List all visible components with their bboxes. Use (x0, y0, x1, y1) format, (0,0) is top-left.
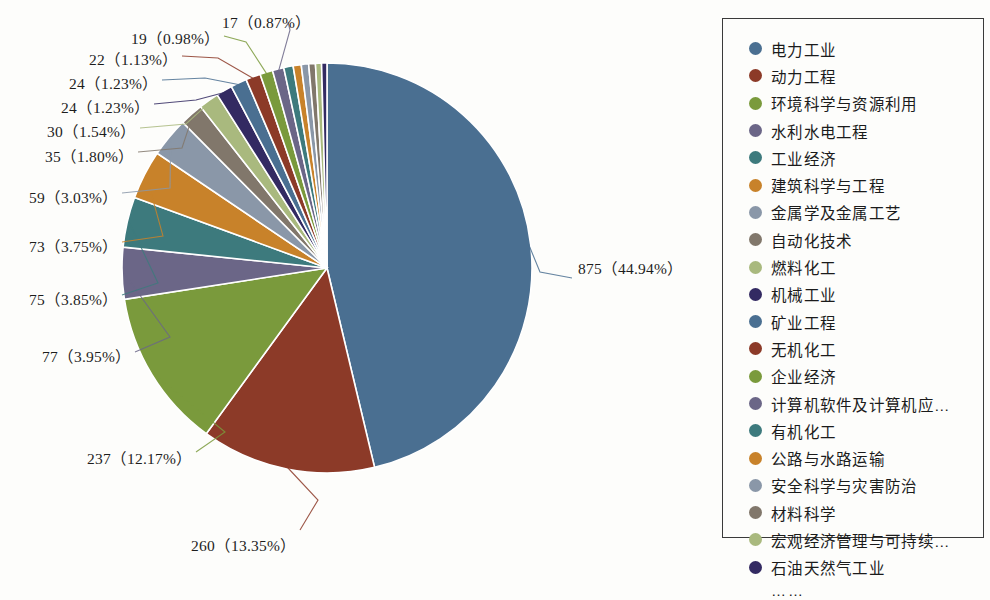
legend-item-label: 计算机软件及计算机应… (771, 393, 950, 415)
legend-item-label: 有机化工 (771, 420, 836, 442)
legend-ellipsis: …… (771, 581, 983, 600)
legend-item[interactable]: 公路与水路运输 (749, 444, 983, 471)
legend-item-label: 建筑科学与工程 (771, 174, 885, 196)
legend-item[interactable]: 机械工业 (749, 281, 983, 308)
legend-item-label: 电力工业 (771, 38, 836, 60)
legend-swatch-icon (749, 315, 762, 328)
legend-swatch-icon (749, 533, 762, 546)
legend-swatch-icon (749, 42, 762, 55)
legend-swatch-icon (749, 452, 762, 465)
slice-label-59: 59（3.03%） (29, 185, 118, 207)
slice-label-22: 22（1.13%） (89, 47, 178, 69)
slice-label-260: 260（13.35%） (191, 533, 296, 555)
legend-swatch-icon (749, 233, 762, 246)
legend-item-label: 材料科学 (771, 502, 836, 524)
slice-label-24-a: 24（1.23%） (61, 95, 150, 117)
legend-item[interactable]: 有机化工 (749, 417, 983, 444)
slice-label-73: 73（3.75%） (29, 234, 118, 256)
legend-item-label: 无机化工 (771, 338, 836, 360)
legend-item[interactable]: 材料科学 (749, 499, 983, 526)
legend-item-label: 燃料化工 (771, 256, 836, 278)
legend-item[interactable]: 无机化工 (749, 335, 983, 362)
legend-item-label: 安全科学与灾害防治 (771, 474, 918, 496)
legend-swatch-icon (749, 97, 762, 110)
slice-label-75: 75（3.85%） (29, 287, 118, 309)
legend-swatch-icon (749, 151, 762, 164)
slice-label-30: 30（1.54%） (47, 119, 136, 141)
legend-item-label: 工业经济 (771, 147, 836, 169)
legend-item-label: 水利水电工程 (771, 120, 869, 142)
legend-item-label: 矿业工程 (771, 311, 836, 333)
legend-swatch-icon (749, 124, 762, 137)
legend-swatch-icon (749, 179, 762, 192)
leader-line (162, 78, 240, 85)
legend-swatch-icon (749, 370, 762, 383)
slice-label-19: 19（0.98%） (131, 26, 220, 48)
legend-item-label: 机械工业 (771, 283, 836, 305)
legend-item[interactable]: 石油天然气工业 (749, 554, 983, 581)
legend-swatch-icon (749, 342, 762, 355)
legend-item[interactable]: 宏观经济管理与可持续… (749, 526, 983, 553)
legend-swatch-icon (749, 69, 762, 82)
legend-item-label: 公路与水路运输 (771, 447, 885, 469)
slice-label-24-b: 24（1.23%） (69, 71, 158, 93)
legend-box: 电力工业动力工程环境科学与资源利用水利水电工程工业经济建筑科学与工程金属学及金属… (722, 18, 984, 538)
chart-area: 875（44.94%） 260（13.35%） 237（12.17%） 77（3… (0, 0, 715, 552)
leader-line (287, 467, 318, 530)
legend-item-label: 自动化技术 (771, 229, 853, 251)
legend-swatch-icon (749, 561, 762, 574)
legend-item-label: 环境科学与资源利用 (771, 92, 918, 114)
legend-item[interactable]: 金属学及金属工艺 (749, 199, 983, 226)
legend-item[interactable]: 动力工程 (749, 62, 983, 89)
legend-swatch-icon (749, 397, 762, 410)
legend-swatch-icon (749, 424, 762, 437)
legend-item[interactable]: 环境科学与资源利用 (749, 90, 983, 117)
legend-item[interactable]: 企业经济 (749, 363, 983, 390)
legend-item-label: 宏观经济管理与可持续… (771, 529, 950, 551)
legend-swatch-icon (749, 261, 762, 274)
slice-label-17: 17（0.87%） (222, 10, 311, 32)
legend-item-label: 企业经济 (771, 365, 836, 387)
legend-item-label: 动力工程 (771, 65, 836, 87)
legend-item[interactable]: 工业经济 (749, 144, 983, 171)
leader-line (224, 36, 267, 74)
leader-line (182, 56, 254, 79)
legend-item[interactable]: 安全科学与灾害防治 (749, 472, 983, 499)
legend-swatch-icon (749, 206, 762, 219)
legend-item[interactable]: 计算机软件及计算机应… (749, 390, 983, 417)
legend-item-label: 石油天然气工业 (771, 556, 885, 578)
legend-item[interactable]: 矿业工程 (749, 308, 983, 335)
slice-label-77: 77（3.95%） (42, 344, 131, 366)
slice-label-35: 35（1.80%） (45, 144, 134, 166)
legend-item[interactable]: 燃料化工 (749, 253, 983, 280)
slice-label-875: 875（44.94%） (578, 256, 683, 278)
legend-item[interactable]: 自动化技术 (749, 226, 983, 253)
slice-label-237: 237（12.17%） (87, 446, 192, 468)
legend-item[interactable]: 水利水电工程 (749, 117, 983, 144)
legend-item[interactable]: 建筑科学与工程 (749, 171, 983, 198)
legend-item-label: 金属学及金属工艺 (771, 201, 901, 223)
leader-line (529, 244, 572, 278)
legend-swatch-icon (749, 479, 762, 492)
legend-swatch-icon (749, 288, 762, 301)
legend-item[interactable]: 电力工业 (749, 35, 983, 62)
legend-swatch-icon (749, 506, 762, 519)
legend-list: 电力工业动力工程环境科学与资源利用水利水电工程工业经济建筑科学与工程金属学及金属… (749, 35, 983, 581)
